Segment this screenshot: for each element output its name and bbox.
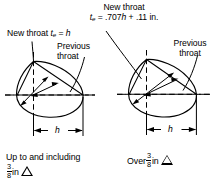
left-new-throat-label: New throat te = h [7,28,71,41]
right-caption-fraction: 3 8 [146,152,151,168]
left-h-dimension-label: h [55,125,60,135]
right-previous-throat-arrow [144,78,179,97]
left-previous-throat-leader [70,57,85,92]
left-caption-denominator: 8 [7,171,12,180]
fillet-weld-triangle-icon [21,166,33,176]
formula-tail: + .11 in. [126,12,158,22]
formula-equals-coefficient: = .707 [95,12,121,22]
right-new-throat-arrow [132,72,174,104]
left-previous-throat-line2: throat [57,51,79,61]
left-weld-triangle [17,62,83,96]
right-previous-throat-line1: Previous [173,38,206,48]
right-weld-triangle [129,60,196,95]
new-throat-top-label: New throat te = .707h + .11 in. [64,2,184,25]
right-new-throat-leader [106,31,142,79]
left-previous-throat-label: Previous throat [57,41,90,61]
left-caption-line1: Up to and including [6,152,80,162]
left-weld-outline [17,61,84,117]
new-throat-top-line1: New throat [103,2,144,12]
right-caption-unit: in [152,156,159,166]
left-previous-throat-line1: Previous [57,41,90,51]
left-caption-numerator: 3 [7,163,12,171]
right-caption: Over 3 8 in [127,152,173,168]
right-weld-outline [129,59,197,117]
weld-throat-figure: New throat te = .707h + .11 in. New thro… [0,0,222,188]
right-caption-numerator: 3 [146,152,151,160]
left-h-variable: h [66,28,71,38]
fillet-weld-triangle-icon-right [161,155,173,165]
left-new-throat-leader [32,42,34,62]
left-caption: Up to and including 3 8 in [6,152,80,180]
right-h-dimension-label: h [168,124,173,134]
right-previous-throat-leader [183,56,198,91]
left-equals-sign: = [56,28,66,38]
left-caption-unit: in [12,167,19,177]
left-new-throat-prefix: New throat [7,28,50,38]
right-caption-prefix: Over [127,156,146,166]
new-throat-formula: te = .707h + .11 in. [90,12,159,22]
left-caption-fraction: 3 8 [7,163,12,179]
right-previous-throat-label: Previous throat [161,38,219,58]
right-caption-denominator: 8 [146,160,151,169]
right-previous-throat-line2: throat [179,48,201,58]
